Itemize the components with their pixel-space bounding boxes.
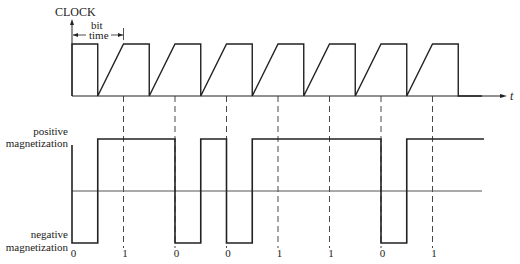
clock-title: CLOCK [55, 5, 96, 19]
bit-boundary-dashed-lines [124, 96, 433, 248]
time-axis [72, 94, 507, 98]
bit-value-label: 1 [122, 247, 128, 259]
bit-value-label: 1 [277, 247, 283, 259]
bit-value-labels: 01001101 [71, 247, 437, 259]
positive-magnetization-label-line1: positive [33, 125, 68, 137]
manchester-encoding-diagram: CLOCK bit time t positive magnetization … [0, 0, 520, 264]
positive-magnetization-label-line2: magnetization [6, 137, 69, 149]
bit-value-label: 1 [431, 247, 437, 259]
bit-time-label-line2: time [89, 29, 109, 41]
bit-value-label: 1 [328, 247, 334, 259]
negative-magnetization-label-line1: negative [31, 228, 68, 240]
bit-value-label: 0 [380, 247, 386, 259]
clock-waveform [72, 44, 482, 96]
negative-magnetization-label-line2: magnetization [6, 241, 69, 253]
bit-value-label: 0 [225, 247, 231, 259]
bit-value-label: 0 [71, 247, 77, 259]
bit-value-label: 0 [174, 247, 180, 259]
time-axis-label: t [510, 89, 514, 103]
